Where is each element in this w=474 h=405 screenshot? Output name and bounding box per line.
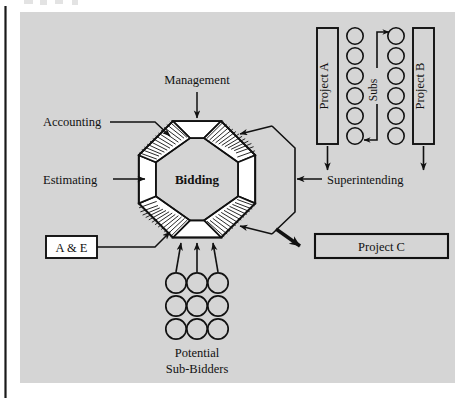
superintending-label: Superintending (327, 173, 404, 187)
subs-label: Subs (367, 78, 379, 101)
sub-circle (347, 68, 363, 84)
sub-bidders-label-line2: Sub-Bidders (166, 362, 229, 376)
sub-circle (347, 108, 363, 124)
sub-circle (347, 28, 363, 44)
sub-bidder-circle (187, 319, 207, 339)
sub-circle (388, 128, 404, 144)
sub-bidder-circle (208, 296, 228, 316)
project-b-label: Project B (413, 63, 427, 110)
sub-bidder-circle (187, 273, 207, 293)
accounting-label: Accounting (43, 115, 102, 129)
sub-bidder-circle (187, 296, 207, 316)
sub-circle (347, 88, 363, 104)
sub-bidder-circle (166, 273, 186, 293)
sub-circle (388, 108, 404, 124)
ae-label: A & E (56, 241, 88, 255)
sub-bidder-circle (166, 296, 186, 316)
sub-circle (347, 48, 363, 64)
management-label: Management (164, 73, 230, 87)
sub-circle (388, 28, 404, 44)
sub-bidder-circle (166, 319, 186, 339)
sub-bidder-circle (208, 273, 228, 293)
sub-bidder-circles (166, 273, 228, 339)
sub-bidders-label-line1: Potential (175, 346, 220, 360)
project-a-label: Project A (317, 63, 331, 110)
center-label: Bidding (175, 172, 220, 187)
sub-circle (388, 88, 404, 104)
sub-circle (388, 68, 404, 84)
project-c-label: Project C (358, 240, 405, 254)
diagram-canvas: Bidding Management Accounting Estimating… (0, 0, 474, 405)
sub-circle (388, 48, 404, 64)
diagram-svg: Bidding Management Accounting Estimating… (0, 0, 474, 405)
sub-circle (347, 128, 363, 144)
sub-bidder-circle (208, 319, 228, 339)
project-c-node: Project C (315, 234, 448, 258)
estimating-label: Estimating (43, 173, 98, 187)
octagon-segment-east (238, 155, 255, 203)
bidding-octagon: Bidding (139, 121, 255, 237)
